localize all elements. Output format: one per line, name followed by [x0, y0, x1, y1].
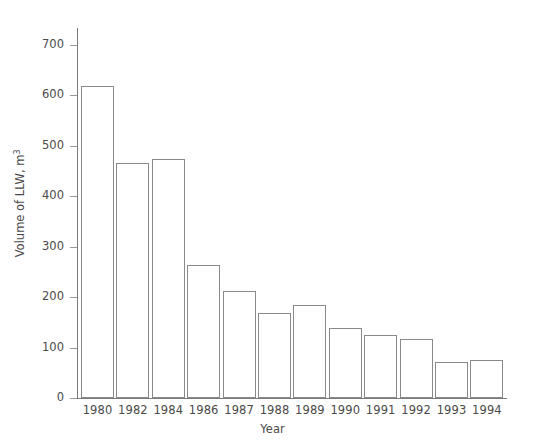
bar-1989: [293, 305, 326, 398]
bar-1980: [81, 86, 114, 398]
y-axis-title-text: Volume of LLW, m: [13, 155, 27, 258]
bar-1991: [364, 335, 397, 398]
bar-1987: [223, 291, 256, 398]
bar-1986: [187, 265, 220, 398]
bars-group: [0, 0, 545, 398]
bar-1984: [152, 159, 185, 398]
bar-1990: [329, 328, 362, 398]
x-tick-label-1994: 1994: [465, 404, 509, 416]
x-axis-title: Year: [0, 422, 545, 436]
y-axis-title-superscript: 3: [13, 149, 22, 154]
bar-1993: [435, 362, 468, 398]
x-axis-line: [77, 398, 507, 399]
bar-1994: [470, 360, 503, 398]
bar-1982: [116, 163, 149, 398]
bar-1988: [258, 313, 291, 398]
y-tick-mark: [70, 398, 77, 399]
bar-1992: [400, 339, 433, 398]
y-axis-title: Volume of LLW, m3: [13, 103, 28, 303]
chart-figure: 0100200300400500600700 19801982198419861…: [0, 0, 545, 443]
